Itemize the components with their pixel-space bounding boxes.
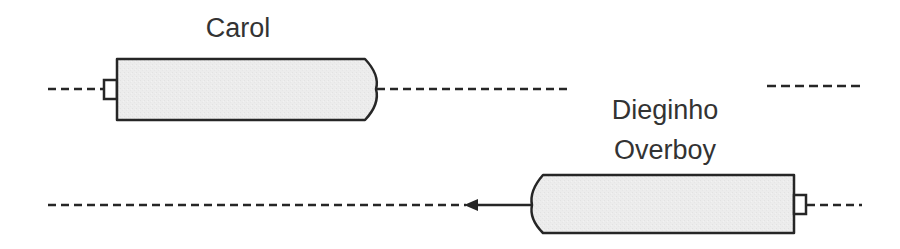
- participant-label-dieginho-line2: Overboy: [590, 137, 740, 164]
- bar-start-tab: [104, 80, 117, 99]
- lane-carol: [48, 59, 865, 120]
- participant-label-dieginho-line1: Dieginho: [590, 97, 740, 124]
- activity-bar-carol: [117, 59, 377, 120]
- arrow-left-icon: [464, 199, 478, 211]
- diagram-canvas: [0, 0, 900, 249]
- activity-bar-dieginho: [531, 175, 794, 233]
- bar-end-tab: [794, 195, 806, 214]
- participant-label-carol: Carol: [188, 15, 288, 42]
- lane-dieginho-overboy: [48, 175, 862, 233]
